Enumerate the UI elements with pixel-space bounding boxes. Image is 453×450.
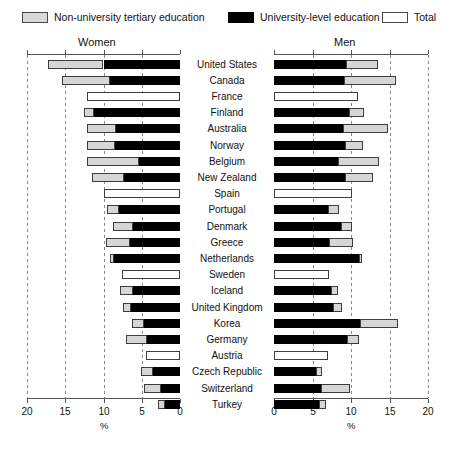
country-label: Greece	[183, 237, 271, 248]
bar-men-non-university	[344, 76, 396, 85]
bar-women-non-university	[87, 124, 116, 133]
bar-women-non-university	[92, 173, 124, 182]
tick-top-right-0	[274, 50, 275, 54]
bar-men-non-university	[321, 384, 350, 393]
bar-men-university	[274, 108, 349, 117]
ticklabel-left-5: 5	[129, 406, 155, 417]
country-label: Portugal	[183, 204, 271, 215]
bar-men-non-university	[347, 335, 359, 344]
bar-women-total	[104, 189, 180, 198]
bar-men-university	[274, 205, 328, 214]
chart-legend: Non-university tertiary education Univer…	[0, 12, 453, 34]
legend-label-total: Total	[414, 12, 436, 23]
bar-men-university	[274, 303, 333, 312]
country-label: Turkey	[183, 399, 271, 410]
bar-men-non-university	[331, 286, 338, 295]
bar-women-non-university	[132, 319, 144, 328]
country-label: Norway	[183, 140, 271, 151]
bar-men-university	[274, 254, 359, 263]
bar-women-non-university	[84, 108, 93, 117]
ticklabel-left-15: 15	[52, 406, 78, 417]
bar-men-non-university	[316, 367, 321, 376]
bar-women-university	[165, 400, 180, 409]
bar-men-university	[274, 60, 346, 69]
legend-item-non-university: Non-university tertiary education	[22, 12, 205, 23]
bar-women-total	[87, 92, 180, 101]
bar-women-non-university	[126, 335, 147, 344]
country-label: Sweden	[183, 269, 271, 280]
bar-women-non-university	[144, 384, 161, 393]
tick-bottom-left-0	[180, 399, 181, 403]
bar-women-university	[114, 254, 180, 263]
tick-top-right-10	[351, 50, 352, 54]
axis-unit-left: %	[100, 420, 108, 431]
tick-bottom-left-15	[65, 399, 66, 403]
bar-men-university	[274, 157, 338, 166]
bar-women-non-university	[158, 400, 165, 409]
tick-top-right-15	[390, 50, 391, 54]
country-label: Switzerland	[183, 383, 271, 394]
legend-label-university: University-level education	[260, 12, 380, 23]
bar-men-university	[274, 400, 319, 409]
tick-top-left-0	[180, 50, 181, 54]
tick-top-left-20	[27, 50, 28, 54]
country-label: Korea	[183, 318, 271, 329]
bar-men-non-university	[360, 319, 398, 328]
bar-women-university	[116, 124, 180, 133]
legend-item-university: University-level education	[228, 12, 380, 23]
bar-men-university	[274, 173, 345, 182]
bar-men-university	[274, 124, 343, 133]
legend-item-total: Total	[382, 12, 436, 23]
axis-unit-right: %	[347, 420, 355, 431]
bar-women-non-university	[87, 141, 115, 150]
bar-men-non-university	[328, 205, 340, 214]
bar-men-non-university	[329, 238, 353, 247]
tick-bottom-left-20	[27, 399, 28, 403]
country-label: Germany	[183, 334, 271, 345]
bar-women-non-university	[106, 238, 130, 247]
bar-women-university	[144, 319, 180, 328]
tick-top-right-20	[428, 50, 429, 54]
bar-men-non-university	[319, 400, 326, 409]
ticklabel-left-20: 20	[14, 406, 40, 417]
country-label: Denmark	[183, 221, 271, 232]
bar-men-non-university	[359, 254, 362, 263]
bar-men-non-university	[333, 303, 342, 312]
ticklabel-left-10: 10	[91, 406, 117, 417]
bar-men-university	[274, 238, 329, 247]
gridline-left-20	[27, 55, 28, 398]
chart-root: Non-university tertiary education Univer…	[0, 0, 453, 450]
country-label: Belgium	[183, 156, 271, 167]
bar-women-university	[119, 205, 180, 214]
tick-bottom-right-15	[390, 399, 391, 403]
country-label: Canada	[183, 75, 271, 86]
ticklabel-right-20: 20	[415, 406, 441, 417]
bar-women-non-university	[87, 157, 139, 166]
tick-bottom-left-5	[142, 399, 143, 403]
bar-men-non-university	[345, 141, 363, 150]
bar-women-non-university	[110, 254, 115, 263]
bar-men-non-university	[338, 157, 379, 166]
bar-women-university	[104, 60, 181, 69]
bar-men-total	[274, 351, 328, 360]
bar-men-non-university	[345, 173, 373, 182]
bar-women-university	[139, 157, 180, 166]
bar-men-university	[274, 286, 331, 295]
bar-women-university	[124, 173, 180, 182]
bar-women-non-university	[120, 286, 133, 295]
bar-women-non-university	[123, 303, 131, 312]
tick-bottom-right-20	[428, 399, 429, 403]
bar-men-non-university	[346, 60, 378, 69]
bar-women-non-university	[113, 222, 132, 231]
bar-women-university	[133, 286, 180, 295]
bar-men-university	[274, 76, 344, 85]
bar-women-non-university	[141, 367, 153, 376]
gridline-right-15	[390, 55, 391, 398]
bar-women-university	[110, 76, 180, 85]
bar-women-university	[130, 238, 180, 247]
bar-men-total	[274, 189, 352, 198]
tick-bottom-left-10	[104, 399, 105, 403]
country-label: United Kingdom	[183, 302, 271, 313]
country-label: United States	[183, 59, 271, 70]
bar-women-university	[153, 367, 180, 376]
